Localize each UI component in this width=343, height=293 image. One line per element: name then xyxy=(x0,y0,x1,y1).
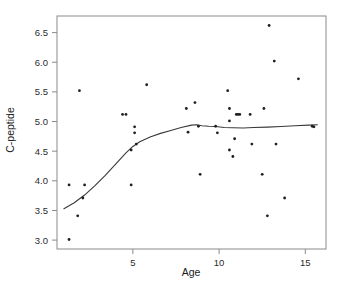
data-point xyxy=(313,125,316,128)
data-point xyxy=(263,107,266,110)
data-point xyxy=(268,24,271,27)
x-axis-ticks: 51015 xyxy=(130,249,310,268)
y-axis-title: C-peptide xyxy=(4,107,16,153)
data-points-group xyxy=(68,24,316,241)
smooth-fit-curve xyxy=(64,125,317,209)
y-tick-label: 5.0 xyxy=(35,116,48,127)
data-point xyxy=(130,149,133,152)
y-tick-label: 3.0 xyxy=(35,235,48,246)
data-point xyxy=(228,107,231,110)
data-point xyxy=(228,149,231,152)
data-point xyxy=(199,173,202,176)
data-point xyxy=(78,89,81,92)
data-point xyxy=(249,113,252,116)
data-point xyxy=(283,197,286,200)
plot-frame xyxy=(57,16,326,249)
data-point xyxy=(197,125,200,128)
data-point xyxy=(194,101,197,104)
data-point xyxy=(125,113,128,116)
plot-frame-rect xyxy=(57,16,326,249)
data-point xyxy=(130,184,133,187)
data-point xyxy=(214,125,217,128)
y-tick-label: 6.5 xyxy=(35,27,48,38)
data-point xyxy=(297,77,300,80)
scatter-plot: 51015 3.03.54.04.55.05.56.06.5 Age C-pep… xyxy=(0,0,343,293)
data-point xyxy=(83,184,86,187)
data-point xyxy=(231,155,234,158)
fit-curve-group xyxy=(64,125,317,209)
x-tick-label: 5 xyxy=(130,257,135,268)
data-point xyxy=(76,214,79,217)
x-tick-label: 10 xyxy=(214,257,225,268)
data-point xyxy=(81,197,84,200)
y-tick-label: 4.0 xyxy=(35,175,48,186)
chart-container: 51015 3.03.54.04.55.05.56.06.5 Age C-pep… xyxy=(0,0,343,293)
data-point xyxy=(135,143,138,146)
data-point xyxy=(68,238,71,241)
y-tick-label: 5.5 xyxy=(35,86,48,97)
data-point xyxy=(145,83,148,86)
y-tick-label: 4.5 xyxy=(35,146,48,157)
y-tick-label: 6.0 xyxy=(35,57,48,68)
data-point xyxy=(273,60,276,63)
data-point xyxy=(266,214,269,217)
data-point xyxy=(68,184,71,187)
data-point xyxy=(250,143,253,146)
data-point xyxy=(187,131,190,134)
data-point xyxy=(216,131,219,134)
x-tick-label: 15 xyxy=(300,257,311,268)
y-tick-label: 3.5 xyxy=(35,205,48,216)
y-axis-ticks: 3.03.54.04.55.05.56.06.5 xyxy=(35,27,57,246)
data-point xyxy=(133,125,136,128)
data-point xyxy=(121,113,124,116)
data-point xyxy=(238,113,241,116)
data-point xyxy=(233,137,236,140)
data-point xyxy=(261,173,264,176)
data-point xyxy=(185,107,188,110)
data-point xyxy=(228,120,231,123)
data-point xyxy=(226,89,229,92)
x-axis-title: Age xyxy=(182,266,201,278)
data-point xyxy=(133,131,136,134)
data-point xyxy=(275,143,278,146)
